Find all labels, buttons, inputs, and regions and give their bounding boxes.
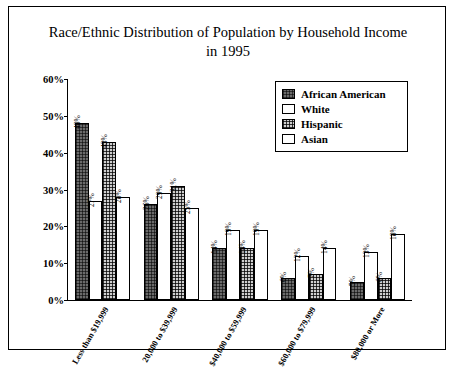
bar: 14%: [240, 248, 254, 300]
x-axis-tick-label: $60,000 to $79,999: [275, 305, 317, 368]
bar: 48%: [75, 123, 89, 300]
y-axis-tick-mark: [64, 300, 68, 301]
bar: 43%: [102, 142, 116, 300]
bar-group: 14%19%14%19%$40,000 to $59,999: [206, 79, 275, 300]
bar: 5%: [350, 282, 364, 300]
y-axis-tick-label: 0%: [48, 295, 64, 306]
bar: 7%: [309, 274, 323, 300]
bar-value-label: 48%: [73, 115, 82, 129]
bar: 14%: [323, 248, 337, 300]
bar: 29%: [157, 193, 171, 300]
y-axis-tick-label: 30%: [43, 184, 64, 195]
y-axis-tick-label: 60%: [43, 74, 64, 85]
bar-value-label: 12%: [293, 248, 302, 262]
legend-item-hispanic: Hispanic: [282, 116, 401, 131]
legend-label-white: White: [301, 103, 330, 115]
legend-swatch-icon-white: [282, 104, 295, 114]
y-axis-tick-label: 10%: [43, 258, 64, 269]
bar: 19%: [254, 230, 268, 300]
bar: 18%: [391, 234, 405, 300]
bar-value-label: 27%: [87, 193, 96, 207]
bar-value-label: 28%: [114, 189, 123, 203]
y-axis-tick-label: 50%: [43, 110, 64, 121]
legend-label-asian: Asian: [301, 133, 328, 145]
x-axis-tick-label: Less than $19,999: [70, 305, 111, 366]
bar-value-label: 29%: [155, 185, 164, 199]
bar: 28%: [116, 197, 130, 300]
legend-label-hispanic: Hispanic: [301, 118, 343, 130]
y-axis-tick-label: 20%: [43, 221, 64, 232]
bar-value-label: 26%: [142, 196, 151, 210]
bar-value-label: 14%: [210, 241, 219, 255]
bar-value-label: 43%: [100, 134, 109, 148]
y-axis-tick-label: 40%: [43, 147, 64, 158]
legend-swatch-icon-hispanic: [282, 119, 295, 129]
bar-value-label: 19%: [252, 222, 261, 236]
chart-title: Race/Ethnic Distribution of Population b…: [39, 23, 417, 61]
bar-group: 48%27%43%28%Less than $19,999: [68, 79, 137, 300]
chart-legend: African American White Hispanic Asian: [275, 81, 408, 152]
bar: 6%: [378, 278, 392, 300]
bar: 26%: [144, 204, 158, 300]
bar-value-label: 19%: [224, 222, 233, 236]
bar-value-label: 6%: [375, 272, 384, 282]
x-axis-tick-label: $80,000 or More: [348, 305, 386, 361]
bar-value-label: 18%: [389, 226, 398, 240]
bar-value-label: 5%: [348, 276, 357, 286]
legend-swatch-icon-african-american: [282, 89, 295, 99]
bar-group: 26%29%31%25%20,000 to $39,999: [137, 79, 206, 300]
legend-item-african-american: African American: [282, 86, 401, 101]
bar: 27%: [89, 201, 103, 300]
x-axis-tick-label: 20,000 to $39,999: [140, 305, 180, 364]
bar-value-label: 7%: [307, 268, 316, 278]
bar-value-label: 14%: [320, 241, 329, 255]
bar-value-label: 14%: [238, 241, 247, 255]
bar-value-label: 31%: [169, 178, 178, 192]
legend-item-white: White: [282, 101, 401, 116]
bar: 25%: [185, 208, 199, 300]
chart-frame: Race/Ethnic Distribution of Population b…: [8, 6, 446, 350]
legend-label-african-american: African American: [301, 88, 386, 100]
bar-value-label: 13%: [362, 244, 371, 258]
bar-value-label: 6%: [279, 272, 288, 282]
legend-swatch-icon-asian: [282, 134, 295, 144]
bar: 14%: [212, 248, 226, 300]
chart-title-line-1: Race/Ethnic Distribution of Population b…: [39, 23, 417, 42]
x-axis-tick-label: $40,000 to $59,999: [207, 305, 249, 368]
bar: 6%: [281, 278, 295, 300]
bar-value-label: 25%: [183, 200, 192, 214]
chart-title-line-2: in 1995: [39, 42, 417, 61]
legend-item-asian: Asian: [282, 131, 401, 146]
